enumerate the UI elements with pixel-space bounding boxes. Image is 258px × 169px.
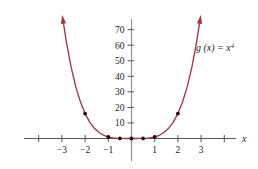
- y-tick-label: 60: [115, 41, 125, 51]
- data-point: [176, 112, 180, 116]
- x-tick-label: 3: [199, 145, 204, 155]
- x-tick-label: 2: [176, 145, 181, 155]
- x-tick-label: 1: [152, 145, 157, 155]
- x-axis-tick-labels: −3−2−1123: [57, 145, 204, 155]
- y-tick-label: 20: [115, 103, 125, 113]
- data-point: [118, 137, 122, 141]
- x-axis-label: x: [241, 133, 247, 144]
- curve-equation-label: g (x) = x4: [196, 42, 235, 55]
- data-point: [153, 135, 157, 139]
- axes-group: [24, 19, 236, 161]
- y-axis-tick-labels: 10203040506070: [115, 25, 125, 128]
- curve-arrowhead-left: [61, 15, 66, 24]
- chart-container: −3−2−1123 10203040506070 x g (x) = x4: [0, 0, 258, 169]
- data-point: [83, 112, 87, 116]
- function-graph: −3−2−1123 10203040506070 x g (x) = x4: [0, 0, 258, 169]
- y-axis-ticks: [128, 30, 135, 123]
- y-tick-label: 50: [115, 56, 125, 66]
- curve-equation-text: g (x) = x: [196, 42, 231, 54]
- x-tick-label: −3: [57, 145, 67, 155]
- y-tick-label: 10: [115, 118, 125, 128]
- x-tick-label: −2: [80, 145, 90, 155]
- y-tick-label: 70: [115, 25, 125, 35]
- y-tick-label: 40: [115, 72, 125, 82]
- data-point: [106, 135, 110, 139]
- curve-equation-exponent: 4: [231, 42, 235, 49]
- x-tick-label: −1: [103, 145, 113, 155]
- data-point: [130, 137, 134, 141]
- data-point: [141, 137, 145, 141]
- curve-arrowhead-right: [197, 15, 202, 24]
- y-tick-label: 30: [115, 87, 125, 97]
